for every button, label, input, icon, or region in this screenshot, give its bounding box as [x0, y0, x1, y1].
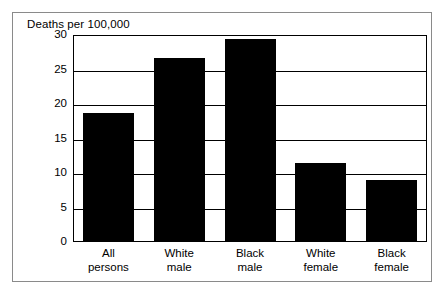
y-tick-label: 0 [61, 236, 67, 248]
y-tick-label: 15 [54, 133, 67, 145]
y-axis-tick-labels: 051015202530 [35, 35, 67, 242]
chart-title: Deaths per 100,000 [27, 18, 130, 30]
x-tick-label: All persons [73, 246, 144, 275]
gridline [74, 209, 426, 210]
gridline [74, 174, 426, 175]
plot-area [73, 35, 427, 242]
x-tick-label: White male [144, 246, 215, 275]
y-tick-label: 5 [61, 202, 67, 214]
gridline [74, 140, 426, 141]
y-tick-label: 20 [54, 98, 67, 110]
y-tick-label: 25 [54, 64, 67, 76]
gridline [74, 105, 426, 106]
chart-figure: Deaths per 100,000 051015202530 All pers… [12, 12, 432, 282]
x-tick-label: Black female [356, 246, 427, 275]
y-tick-label: 10 [54, 167, 67, 179]
x-tick-label: White female [285, 246, 356, 275]
gridline [74, 71, 426, 72]
x-tick-label: Black male [215, 246, 286, 275]
x-axis-tick-labels: All personsWhite maleBlack maleWhite fem… [73, 244, 427, 280]
y-tick-label: 30 [54, 29, 67, 41]
